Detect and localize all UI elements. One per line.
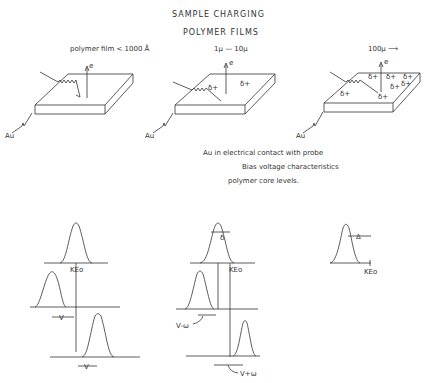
spectra-left [30,223,140,366]
spectrum-right [330,224,371,266]
svg-text:Au: Au [5,132,14,140]
svg-text:δ+: δ+ [390,83,400,91]
svg-text:V-ω: V-ω [176,322,189,330]
svg-text:e: e [229,59,233,67]
svg-text:V: V [84,363,89,371]
slab-2 [153,63,275,133]
diagram-canvas: Au e Au e δ+ δ+ Au e δ+ δ+ δ+ δ+ δ+ δ+ δ… [0,0,424,383]
svg-text:e: e [89,62,93,70]
svg-text:Au: Au [296,132,305,140]
svg-text:KEo: KEo [229,266,242,274]
svg-text:δ+: δ+ [340,90,350,98]
svg-text:δ+: δ+ [378,93,388,101]
slab-labels: Au e Au e δ+ δ+ Au e δ+ δ+ δ+ δ+ δ+ δ+ δ… [5,58,413,140]
svg-text:δ+: δ+ [368,73,378,81]
svg-text:Δ: Δ [356,233,361,241]
svg-text:V+ω: V+ω [240,370,257,378]
svg-text:KEo: KEo [70,266,83,274]
spectra-middle [176,223,260,373]
spectrum-right-labels: Δ KEo [356,233,377,276]
svg-text:δ: δ [220,234,224,242]
svg-text:δ+: δ+ [240,80,250,88]
svg-text:δ+: δ+ [208,84,218,92]
svg-text:δ+: δ+ [386,73,396,81]
slab-1 [12,66,133,133]
svg-text:e: e [384,58,388,66]
svg-text:KEo: KEo [364,268,377,276]
svg-text:δ+: δ+ [401,80,411,88]
svg-text:Au: Au [145,132,154,140]
svg-text:V: V [59,314,64,322]
